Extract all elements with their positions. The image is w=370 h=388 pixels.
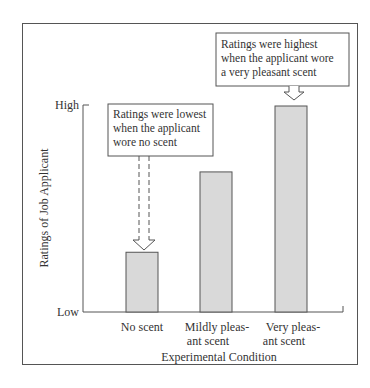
y-axis-label: Ratings of Job Applicant xyxy=(37,148,51,268)
annotation-highest-line2: when the applicant wore xyxy=(221,52,334,65)
annotation-highest-line3: a very pleasant scent xyxy=(221,66,317,79)
x-tick-very-line1: Very pleas- xyxy=(266,320,320,334)
y-tick-high: High xyxy=(55,98,79,112)
bar-chart: High Low Ratings of Job Applicant No sce… xyxy=(0,0,370,388)
x-tick-no-scent: No scent xyxy=(121,320,164,334)
y-tick-low: Low xyxy=(57,305,79,319)
annotation-highest-line1: Ratings were highest xyxy=(221,38,318,51)
x-tick-very-line2: ant scent xyxy=(263,334,306,348)
annotation-lowest: Ratings were lowest when the applicant w… xyxy=(108,104,213,250)
x-axis-label: Experimental Condition xyxy=(161,350,277,364)
bar-mildly-pleasant-scent xyxy=(200,172,232,312)
x-tick-mildly-line2: ant scent xyxy=(187,334,230,348)
x-tick-mildly-line1: Mildly pleas- xyxy=(185,320,249,334)
arrow-down-icon xyxy=(284,86,304,100)
annotation-lowest-line3: wore no scent xyxy=(113,136,178,148)
bar-no-scent xyxy=(126,252,158,312)
annotation-highest: Ratings were highest when the applicant … xyxy=(216,33,349,100)
annotation-lowest-line2: when the applicant xyxy=(113,122,201,135)
dashed-arrow-icon xyxy=(133,156,155,250)
bar-very-pleasant-scent xyxy=(275,106,307,312)
annotation-lowest-line1: Ratings were lowest xyxy=(113,108,207,121)
